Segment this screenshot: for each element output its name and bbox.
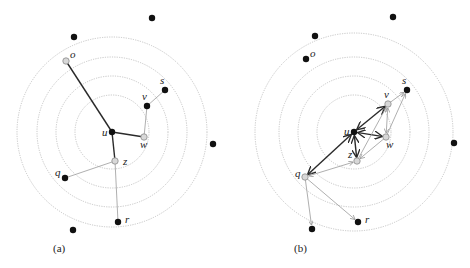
node-n4	[70, 227, 76, 233]
node-n1	[149, 15, 155, 21]
edge-u-w	[358, 133, 382, 137]
edge-u-w	[112, 132, 144, 137]
node-label-w: w	[386, 138, 394, 150]
node-label-q: q	[295, 167, 301, 179]
node-r	[115, 219, 121, 225]
node-q	[62, 175, 68, 181]
node-u	[351, 129, 357, 135]
node-v	[385, 101, 391, 107]
panel-b: uovswzqr(b)	[255, 14, 457, 255]
figure: uovswzqr(a) uovswzqr(b)	[0, 0, 470, 268]
node-s	[162, 87, 168, 93]
edge-u-q	[308, 135, 351, 174]
edge-v-s	[147, 90, 165, 106]
node-z	[354, 158, 360, 164]
node-z	[112, 158, 118, 164]
edge-u-z	[112, 132, 115, 161]
node-label-q: q	[55, 166, 61, 178]
node-label-s: s	[160, 74, 164, 86]
node-label-o: o	[70, 48, 76, 60]
panel-a: uovswzqr(a)	[17, 15, 216, 255]
edge-w-s	[386, 94, 405, 137]
node-n3	[451, 140, 457, 146]
edge-z-r	[115, 161, 118, 222]
edge-w-v	[386, 108, 387, 133]
edge-w-v	[144, 106, 147, 137]
node-u	[109, 129, 115, 135]
panel-caption: (b)	[294, 242, 307, 255]
node-s	[404, 87, 410, 93]
panel-caption: (a)	[53, 242, 66, 255]
edge-u-o	[66, 61, 112, 132]
node-r	[355, 219, 361, 225]
node-label-v: v	[142, 90, 147, 102]
node-v	[144, 103, 150, 109]
node-n3	[210, 141, 216, 147]
edge-q-n4	[305, 177, 311, 225]
node-q	[302, 174, 308, 180]
node-n1	[390, 14, 396, 20]
node-n2	[71, 34, 77, 40]
node-o	[303, 56, 309, 62]
node-label-v: v	[384, 88, 389, 100]
edge-q-z	[309, 162, 353, 176]
node-label-o: o	[310, 47, 316, 59]
edge-u-z	[354, 136, 356, 157]
edge-q-r	[305, 177, 355, 219]
node-label-r: r	[125, 213, 130, 225]
node-label-s: s	[402, 74, 406, 86]
node-label-w: w	[140, 138, 148, 150]
node-label-z: z	[347, 148, 353, 160]
node-n4	[309, 226, 315, 232]
node-label-r: r	[365, 213, 370, 225]
node-label-u: u	[102, 126, 108, 138]
node-label-u: u	[344, 125, 350, 137]
edge-z-v	[357, 108, 386, 161]
node-n2	[312, 33, 318, 39]
edge-z-q	[65, 161, 115, 178]
node-label-z: z	[122, 155, 128, 167]
node-o	[63, 58, 69, 64]
